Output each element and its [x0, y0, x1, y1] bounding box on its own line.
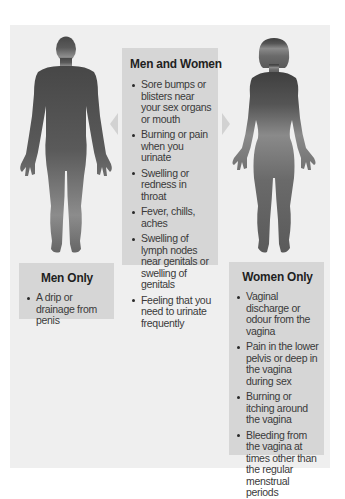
list-item: Burning or itching around the vagina — [235, 391, 320, 426]
list-item: Feeling that you need to urinate frequen… — [130, 295, 213, 330]
women-only-list: Vaginal discharge or odour from the vagi… — [235, 291, 320, 499]
male-body-silhouette-icon — [18, 36, 114, 256]
men-only-symptoms-box: Men Only A drip or drainage from penis — [19, 263, 114, 319]
list-item: A drip or drainage from penis — [25, 292, 109, 327]
list-item: Swelling of lymph nodes near genitals or… — [130, 233, 213, 291]
men-only-list: A drip or drainage from penis — [25, 292, 109, 327]
triangle-right-icon — [222, 113, 230, 135]
list-item: Bleeding from the vagina at times other … — [235, 430, 320, 499]
list-item: Swelling or redness in throat — [130, 168, 213, 203]
men-only-title: Men Only — [30, 270, 104, 285]
women-only-title: Women Only — [240, 269, 315, 284]
men-and-women-list: Sore bumps or blisters near your sex org… — [130, 79, 213, 329]
men-and-women-symptoms-box: Men and Women Sore bumps or blisters nea… — [122, 48, 218, 265]
list-item: Vaginal discharge or odour from the vagi… — [235, 291, 320, 337]
triangle-left-icon — [110, 113, 118, 135]
female-body-silhouette-icon — [228, 38, 320, 256]
list-item: Sore bumps or blisters near your sex org… — [130, 79, 213, 125]
list-item: Burning or pain when you urinate — [130, 129, 213, 164]
women-only-symptoms-box: Women Only Vaginal discharge or odour fr… — [229, 262, 324, 455]
men-and-women-title: Men and Women — [130, 56, 203, 71]
list-item: Fever, chills, aches — [130, 206, 213, 229]
list-item: Pain in the lower pelvis or deep in the … — [235, 341, 320, 387]
